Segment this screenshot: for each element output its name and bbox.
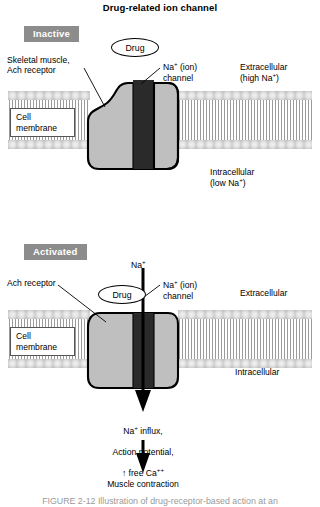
label-intracellular-inactive: Intracellular(low Na+) — [210, 157, 254, 188]
receptor-shape-open-icon — [86, 295, 180, 392]
phospholipid-heads-outer-icon — [178, 310, 312, 319]
receptor-channel-activated — [86, 295, 180, 392]
label-extracellular-inactive: Extracellular(high Na+) — [240, 52, 287, 83]
outcome-result: Muscle contraction — [83, 479, 203, 489]
na-ion-channel-text: Na+ (ion)channel — [163, 62, 197, 82]
up-arrow-icon: ↑ — [122, 468, 126, 478]
label-na-ion-channel-activated: Na+ (ion)channel — [163, 270, 197, 301]
phospholipid-heads-inner-icon — [8, 359, 90, 368]
phospholipid-heads-outer-icon — [178, 91, 312, 100]
cell-membrane-callout-activated: Cellmembrane — [10, 327, 75, 356]
panel-badge-activated: Activated — [24, 244, 87, 260]
figure-drug-related-ion-channel: Drug-related ion channel Inactive Cellme… — [0, 0, 320, 507]
panel-badge-inactive: Inactive — [24, 26, 79, 42]
receptor-channel-inactive — [86, 76, 180, 173]
drug-oval-activated: Drug — [98, 285, 146, 304]
drug-label: Drug — [112, 39, 158, 57]
membrane-bilayer-activated-right — [178, 310, 312, 368]
figure-caption: FIGURE 2-12 Illustration of drug-recepto… — [0, 496, 320, 506]
label-intracellular-activated: Intracellular — [235, 367, 279, 377]
phospholipid-tails-inner-icon — [178, 339, 312, 359]
phospholipid-tails-outer-icon — [178, 319, 312, 339]
label-extracellular-activated: Extracellular — [240, 288, 287, 298]
phospholipid-heads-outer-icon — [8, 91, 90, 100]
outcome-action-potential: Action potential, — [112, 447, 173, 457]
membrane-bilayer-inactive-right — [178, 91, 312, 149]
figure-title: Drug-related ion channel — [0, 2, 320, 13]
drug-label: Drug — [99, 286, 145, 304]
phospholipid-heads-inner-icon — [178, 140, 312, 149]
outcome-effects: Na+ influx, Action potential, ↑ free Ca+… — [83, 416, 203, 478]
phospholipid-heads-inner-icon — [8, 140, 90, 149]
label-ach-receptor-activated: Ach receptor — [7, 278, 56, 288]
phospholipid-tails-outer-icon — [178, 100, 312, 120]
label-na-ion-activated: Na+ — [131, 250, 146, 271]
cell-membrane-callout-inactive: Cellmembrane — [10, 108, 75, 137]
receptor-shape-icon — [86, 76, 180, 173]
label-na-ion-channel-inactive: Na+ (ion)channel — [163, 52, 197, 83]
label-skeletal-muscle-ach-receptor: Skeletal muscle,Ach receptor — [7, 55, 70, 76]
phospholipid-tails-inner-icon — [178, 120, 312, 140]
phospholipid-heads-outer-icon — [8, 310, 90, 319]
drug-oval-inactive: Drug — [111, 38, 159, 57]
